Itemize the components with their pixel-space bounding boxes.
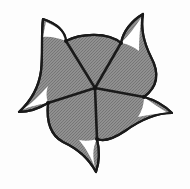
node-top-left [64, 39, 68, 43]
geometric-figure [0, 0, 190, 189]
center-point [93, 86, 97, 90]
node-bottom [95, 137, 99, 141]
node-right [142, 95, 146, 99]
node-top-right [119, 41, 123, 45]
figure-canvas [0, 0, 190, 189]
node-left [46, 101, 50, 105]
